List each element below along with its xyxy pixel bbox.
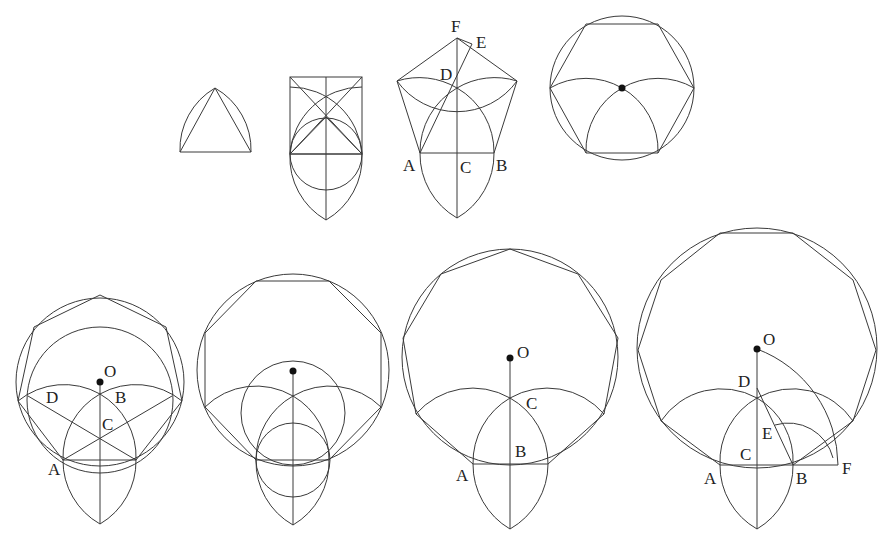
label-E: E <box>476 33 486 52</box>
label-D: D <box>46 388 58 407</box>
figure-heptagon: O D B C A <box>16 295 184 524</box>
label-B: B <box>496 156 507 175</box>
figure-pentagon: F E D A C B <box>397 17 517 218</box>
center-dot <box>619 85 626 92</box>
label-B: B <box>115 388 126 407</box>
label-D: D <box>738 372 750 391</box>
label-B: B <box>515 442 526 461</box>
label-C: C <box>102 415 113 434</box>
figure-triangle <box>180 88 251 152</box>
label-O: O <box>517 343 529 362</box>
label-C: C <box>460 158 471 177</box>
figure-square <box>290 77 362 220</box>
figure-hexagon <box>550 16 694 160</box>
label-F: F <box>842 459 851 478</box>
label-E: E <box>762 424 772 443</box>
label-O: O <box>104 362 116 381</box>
label-C: C <box>526 394 537 413</box>
label-F: F <box>451 17 460 36</box>
label-A: A <box>48 460 61 479</box>
polygon-constructions-diagram: F E D A C B O D B C A <box>0 0 894 542</box>
label-C: C <box>740 445 751 464</box>
label-B: B <box>796 469 807 488</box>
label-A: A <box>403 156 416 175</box>
label-A: A <box>704 469 717 488</box>
label-A: A <box>456 466 469 485</box>
figure-octagon <box>197 274 389 525</box>
figure-decagon: O D E C A B F <box>637 228 877 529</box>
label-D: D <box>440 65 452 84</box>
figure-nonagon: O C B A <box>402 249 618 529</box>
label-O: O <box>763 330 775 349</box>
